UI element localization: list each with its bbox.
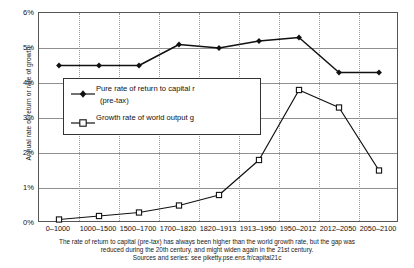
legend-label-r-line2: (pre-tax) (100, 96, 254, 106)
y-axis-tick-label: 1% (8, 183, 34, 192)
data-point-marker-diamond (136, 63, 142, 69)
legend-marker-filled-diamond-icon (70, 85, 96, 95)
data-point-marker-square (256, 157, 261, 162)
data-point-marker-square (376, 168, 381, 173)
y-axis-tick-label: 6% (8, 8, 34, 17)
data-point-marker-diamond (216, 45, 222, 51)
chart-figure: Annual rate of return or rate of growth … (0, 0, 414, 268)
legend-label-r: Pure rate of return to capital r (96, 84, 195, 94)
caption-line-3: Sources and series: see piketty.pse.ens.… (14, 254, 400, 262)
legend-entry-r: Pure rate of return to capital r (70, 84, 254, 95)
legend-marker-open-square-icon (70, 114, 96, 124)
data-point-marker-diamond (96, 63, 102, 69)
y-axis-tick-label: 2% (8, 148, 34, 157)
y-axis-tick-label: 5% (8, 43, 34, 52)
data-point-marker-diamond (56, 63, 62, 69)
x-axis-tick-label: 2050–2100 (347, 224, 409, 233)
caption-line-2: reduced during the 20th century, and mig… (14, 246, 400, 254)
y-axis-tick-label: 3% (8, 113, 34, 122)
data-point-marker-diamond (376, 70, 382, 76)
x-axis-tick-labels: 0–10001000–15001500–17001700–18201820–19… (38, 224, 398, 238)
data-point-marker-square (216, 192, 221, 197)
data-point-marker-square (56, 217, 61, 222)
data-point-marker-square (96, 213, 101, 218)
data-point-marker-square (296, 87, 301, 92)
legend-entry-g: Growth rate of world output g (70, 113, 254, 124)
series-line-r (59, 38, 379, 73)
caption-line-1: The rate of return to capital (pre-tax) … (14, 238, 400, 246)
chart-caption: The rate of return to capital (pre-tax) … (14, 238, 400, 263)
data-point-marker-diamond (256, 38, 262, 44)
chart-legend: Pure rate of return to capital r (pre-ta… (63, 78, 261, 135)
data-point-marker-diamond (176, 42, 182, 48)
data-point-marker-square (176, 203, 181, 208)
data-point-marker-square (136, 210, 141, 215)
y-axis-tick-label: 4% (8, 78, 34, 87)
data-point-marker-square (336, 105, 341, 110)
legend-label-g: Growth rate of world output g (96, 113, 194, 123)
